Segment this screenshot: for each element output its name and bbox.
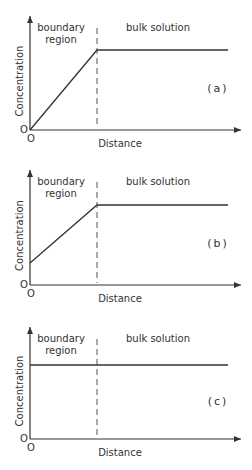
panel-c: boundaryregionbulk solution(c)DistanceCo… (14, 327, 241, 458)
panel-label: (a) (207, 82, 228, 95)
boundary-region-label-2: region (45, 345, 77, 356)
bulk-solution-label: bulk solution (126, 22, 190, 33)
bulk-solution-label: bulk solution (126, 176, 190, 187)
boundary-region-label: boundary (37, 333, 85, 344)
origin-x-label: O (27, 133, 35, 144)
x-axis-label: Distance (98, 138, 142, 149)
concentration-profile-line (30, 50, 228, 130)
panel-a: boundaryregionbulk solution(a)DistanceCo… (14, 16, 241, 149)
panel-label: (c) (208, 395, 229, 408)
boundary-region-label: boundary (37, 22, 85, 33)
y-axis-label: Concentration (14, 46, 25, 117)
concentration-profile-figure: boundaryregionbulk solution(a)DistanceCo… (0, 0, 252, 470)
bulk-solution-label: bulk solution (126, 333, 190, 344)
origin-x-label: O (27, 288, 35, 299)
y-axis-label: Concentration (14, 200, 25, 271)
concentration-profile-line (30, 205, 228, 263)
x-axis-label: Distance (98, 447, 142, 458)
boundary-region-label: boundary (37, 176, 85, 187)
boundary-region-label-2: region (45, 34, 77, 45)
panel-b: boundaryregionbulk solution(b)DistanceCo… (14, 170, 241, 304)
x-axis-label: Distance (98, 293, 142, 304)
boundary-region-label-2: region (45, 188, 77, 199)
panel-label: (b) (207, 237, 229, 250)
y-axis-label: Concentration (14, 356, 25, 427)
origin-x-label: O (27, 442, 35, 453)
